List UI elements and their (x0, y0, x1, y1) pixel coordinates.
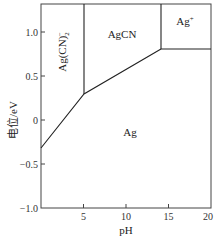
x-tick-15: 15 (164, 211, 174, 222)
y-tick-0: 0 (33, 115, 38, 126)
region-label-agcn: AgCN (108, 28, 137, 40)
y-tick-minus-0.5: −0.5 (20, 159, 38, 170)
y-tick-0.5: 0.5 (26, 71, 39, 82)
x-tick-5: 5 (81, 211, 86, 222)
x-tick-10: 10 (121, 211, 131, 222)
x-axis-ticks (84, 204, 169, 208)
y-tick-1.0: 1.0 (26, 27, 39, 38)
x-tick-20: 20 (203, 211, 213, 222)
region-label-agcn2-minus: Ag(CN)2− (56, 32, 71, 72)
y-axis-title: 电位/eV (6, 101, 19, 139)
region-label-agplus: Ag+ (176, 15, 193, 27)
pourbaix-diagram: 1.0 0.5 0 −0.5 −1.0 5 10 15 20 pH 电位/eV … (0, 0, 221, 242)
y-tick-minus-1.0: −1.0 (20, 203, 38, 214)
region-label-ag: Ag (123, 126, 137, 138)
x-axis-title: pH (119, 224, 133, 236)
svg-text:Ag(CN)2−: Ag(CN)2− (56, 32, 71, 72)
